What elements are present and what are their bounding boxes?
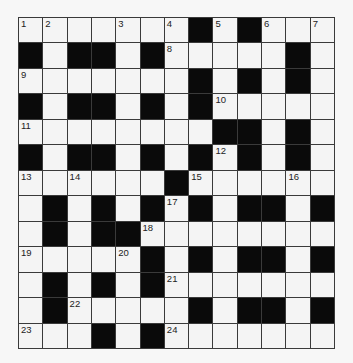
answer-cell[interactable] xyxy=(189,120,212,144)
answer-cell[interactable] xyxy=(141,120,164,144)
answer-cell[interactable] xyxy=(286,222,309,246)
answer-cell[interactable]: 20 xyxy=(116,247,139,271)
answer-cell[interactable] xyxy=(189,324,212,348)
answer-cell[interactable] xyxy=(19,196,42,220)
answer-cell[interactable] xyxy=(213,196,236,220)
answer-cell[interactable] xyxy=(43,171,66,195)
answer-cell[interactable] xyxy=(116,196,139,220)
answer-cell[interactable] xyxy=(68,247,91,271)
answer-cell[interactable] xyxy=(311,171,334,195)
answer-cell[interactable] xyxy=(141,171,164,195)
answer-cell[interactable]: 1 xyxy=(19,18,42,42)
answer-cell[interactable] xyxy=(92,171,115,195)
answer-cell[interactable]: 21 xyxy=(165,273,188,297)
answer-cell[interactable] xyxy=(286,298,309,322)
answer-cell[interactable] xyxy=(116,43,139,67)
answer-cell[interactable] xyxy=(68,222,91,246)
answer-cell[interactable] xyxy=(19,222,42,246)
answer-cell[interactable] xyxy=(43,94,66,118)
answer-cell[interactable] xyxy=(286,18,309,42)
answer-cell[interactable]: 4 xyxy=(165,18,188,42)
answer-cell[interactable] xyxy=(92,298,115,322)
answer-cell[interactable] xyxy=(189,43,212,67)
answer-cell[interactable] xyxy=(213,273,236,297)
answer-cell[interactable] xyxy=(262,222,285,246)
answer-cell[interactable] xyxy=(286,324,309,348)
answer-cell[interactable] xyxy=(141,18,164,42)
answer-cell[interactable] xyxy=(311,324,334,348)
answer-cell[interactable] xyxy=(213,298,236,322)
answer-cell[interactable] xyxy=(43,43,66,67)
answer-cell[interactable]: 12 xyxy=(213,145,236,169)
answer-cell[interactable] xyxy=(262,324,285,348)
answer-cell[interactable]: 6 xyxy=(262,18,285,42)
answer-cell[interactable] xyxy=(43,120,66,144)
answer-cell[interactable] xyxy=(19,298,42,322)
answer-cell[interactable] xyxy=(238,171,261,195)
answer-cell[interactable] xyxy=(165,69,188,93)
answer-cell[interactable] xyxy=(238,273,261,297)
answer-cell[interactable] xyxy=(311,94,334,118)
answer-cell[interactable]: 2 xyxy=(43,18,66,42)
answer-cell[interactable]: 3 xyxy=(116,18,139,42)
answer-cell[interactable] xyxy=(116,69,139,93)
answer-cell[interactable] xyxy=(311,43,334,67)
answer-cell[interactable]: 9 xyxy=(19,69,42,93)
answer-cell[interactable] xyxy=(68,273,91,297)
answer-cell[interactable] xyxy=(165,120,188,144)
answer-cell[interactable] xyxy=(213,222,236,246)
answer-cell[interactable]: 7 xyxy=(311,18,334,42)
answer-cell[interactable] xyxy=(238,43,261,67)
answer-cell[interactable] xyxy=(213,247,236,271)
answer-cell[interactable] xyxy=(311,120,334,144)
answer-cell[interactable] xyxy=(213,69,236,93)
answer-cell[interactable] xyxy=(165,222,188,246)
answer-cell[interactable]: 24 xyxy=(165,324,188,348)
answer-cell[interactable]: 15 xyxy=(189,171,212,195)
answer-cell[interactable] xyxy=(68,324,91,348)
answer-cell[interactable] xyxy=(116,171,139,195)
answer-cell[interactable] xyxy=(92,69,115,93)
answer-cell[interactable] xyxy=(141,298,164,322)
answer-cell[interactable] xyxy=(213,43,236,67)
answer-cell[interactable]: 14 xyxy=(68,171,91,195)
answer-cell[interactable] xyxy=(43,69,66,93)
answer-cell[interactable]: 17 xyxy=(165,196,188,220)
answer-cell[interactable] xyxy=(92,247,115,271)
answer-cell[interactable] xyxy=(43,247,66,271)
answer-cell[interactable] xyxy=(43,145,66,169)
answer-cell[interactable] xyxy=(189,273,212,297)
answer-cell[interactable] xyxy=(165,94,188,118)
answer-cell[interactable] xyxy=(189,222,212,246)
answer-cell[interactable]: 5 xyxy=(213,18,236,42)
answer-cell[interactable]: 18 xyxy=(141,222,164,246)
answer-cell[interactable] xyxy=(68,196,91,220)
answer-cell[interactable] xyxy=(92,120,115,144)
answer-cell[interactable]: 13 xyxy=(19,171,42,195)
answer-cell[interactable] xyxy=(311,273,334,297)
answer-cell[interactable] xyxy=(238,222,261,246)
answer-cell[interactable]: 10 xyxy=(213,94,236,118)
answer-cell[interactable] xyxy=(165,298,188,322)
answer-cell[interactable]: 19 xyxy=(19,247,42,271)
answer-cell[interactable] xyxy=(286,273,309,297)
answer-cell[interactable] xyxy=(43,324,66,348)
answer-cell[interactable] xyxy=(286,247,309,271)
answer-cell[interactable] xyxy=(262,43,285,67)
answer-cell[interactable] xyxy=(116,273,139,297)
answer-cell[interactable] xyxy=(116,298,139,322)
answer-cell[interactable] xyxy=(262,171,285,195)
answer-cell[interactable] xyxy=(68,18,91,42)
answer-cell[interactable] xyxy=(262,94,285,118)
answer-cell[interactable] xyxy=(165,247,188,271)
answer-cell[interactable] xyxy=(311,145,334,169)
answer-cell[interactable] xyxy=(238,324,261,348)
answer-cell[interactable] xyxy=(116,94,139,118)
answer-cell[interactable] xyxy=(92,18,115,42)
answer-cell[interactable] xyxy=(141,69,164,93)
answer-cell[interactable]: 16 xyxy=(286,171,309,195)
answer-cell[interactable] xyxy=(262,145,285,169)
answer-cell[interactable]: 23 xyxy=(19,324,42,348)
answer-cell[interactable] xyxy=(116,120,139,144)
answer-cell[interactable]: 22 xyxy=(68,298,91,322)
